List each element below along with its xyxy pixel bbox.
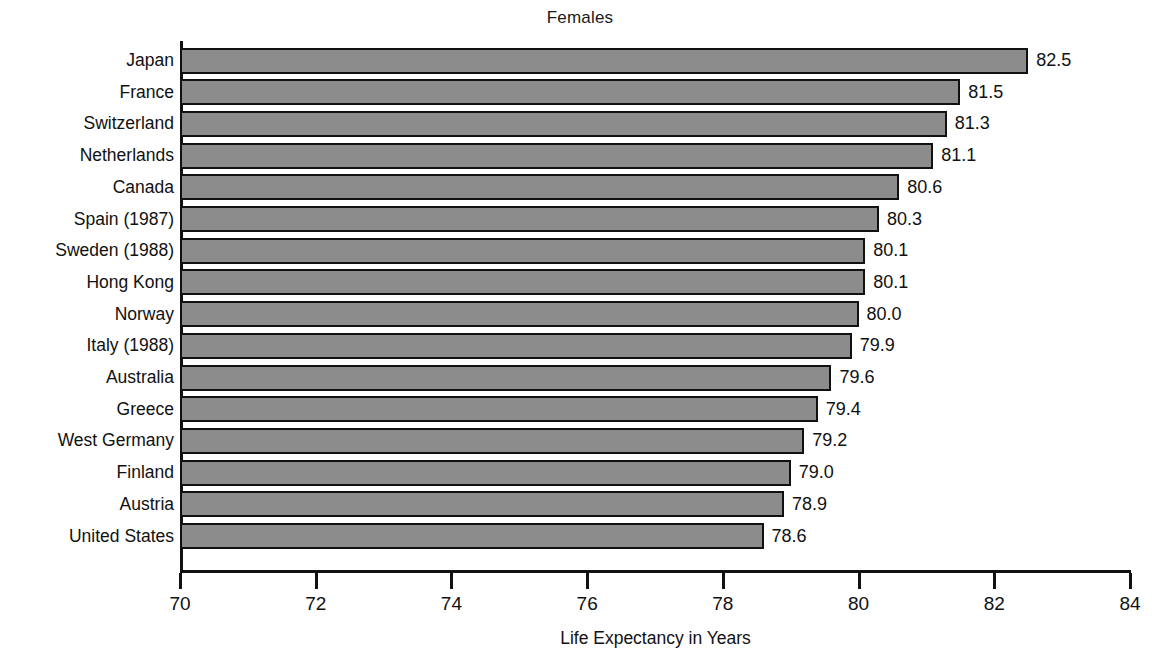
x-tick-label: 72 — [286, 592, 346, 616]
bar — [180, 460, 791, 486]
bar-row: 82.5 — [180, 45, 1130, 77]
category-label: Finland — [2, 461, 174, 483]
x-tick-mark — [179, 573, 182, 589]
bar-row: 79.2 — [180, 425, 1130, 457]
bar — [180, 491, 784, 517]
bar-value-label: 79.9 — [860, 331, 895, 359]
x-axis-title: Life Expectancy in Years — [180, 627, 1131, 649]
category-label: Switzerland — [2, 112, 174, 134]
bar-row: 81.1 — [180, 140, 1130, 172]
category-label: France — [2, 81, 174, 103]
bar-value-label: 80.1 — [873, 236, 908, 264]
plot-area: 82.581.581.381.180.680.380.180.180.079.9… — [180, 45, 1130, 572]
category-label: Austria — [2, 493, 174, 515]
x-tick-label: 78 — [693, 592, 753, 616]
bar-row: 79.0 — [180, 457, 1130, 489]
bar-value-label: 79.4 — [826, 395, 861, 423]
bar-value-label: 81.1 — [941, 141, 976, 169]
bar-value-label: 79.6 — [839, 363, 874, 391]
x-tick-label: 82 — [964, 592, 1024, 616]
bar-row: 80.1 — [180, 267, 1130, 299]
bar — [180, 365, 831, 391]
x-tick-label: 70 — [150, 592, 210, 616]
bar-row: 80.6 — [180, 172, 1130, 204]
x-tick-mark — [450, 573, 453, 589]
bar — [180, 269, 865, 295]
category-label: Japan — [2, 49, 174, 71]
category-label: Canada — [2, 176, 174, 198]
life-expectancy-bar-chart: Females JapanFranceSwitzerlandNetherland… — [0, 0, 1160, 660]
x-tick-mark — [586, 573, 589, 589]
bar — [180, 428, 804, 454]
category-label: Spain (1987) — [2, 208, 174, 230]
bar-row: 80.1 — [180, 235, 1130, 267]
category-label: Hong Kong — [2, 271, 174, 293]
x-tick-mark — [1129, 573, 1132, 589]
bar — [180, 396, 818, 422]
bar-row: 80.3 — [180, 204, 1130, 236]
x-tick-mark — [315, 573, 318, 589]
category-label: Sweden (1988) — [2, 239, 174, 261]
bar — [180, 523, 764, 549]
bar-value-label: 80.6 — [907, 173, 942, 201]
category-label: Netherlands — [2, 144, 174, 166]
category-label: Norway — [2, 303, 174, 325]
bar — [180, 143, 933, 169]
bar-value-label: 81.3 — [955, 109, 990, 137]
bar-row: 81.5 — [180, 77, 1130, 109]
bar-value-label: 78.9 — [792, 490, 827, 518]
bar-value-label: 81.5 — [968, 78, 1003, 106]
bar — [180, 238, 865, 264]
bar — [180, 206, 879, 232]
category-axis-labels: JapanFranceSwitzerlandNetherlandsCanadaS… — [0, 45, 174, 572]
bar-row: 79.9 — [180, 330, 1130, 362]
bar-value-label: 79.2 — [812, 426, 847, 454]
bar-row: 78.6 — [180, 521, 1130, 553]
bar-value-label: 80.1 — [873, 268, 908, 296]
category-label: Australia — [2, 366, 174, 388]
chart-title: Females — [0, 8, 1160, 28]
category-label: Greece — [2, 398, 174, 420]
bar — [180, 333, 852, 359]
bar-value-label: 80.0 — [867, 300, 902, 328]
bar-value-label: 79.0 — [799, 458, 834, 486]
bar-row: 79.4 — [180, 394, 1130, 426]
bar — [180, 111, 947, 137]
category-label: Italy (1988) — [2, 334, 174, 356]
bar — [180, 48, 1028, 74]
x-tick-mark — [858, 573, 861, 589]
bar-value-label: 80.3 — [887, 205, 922, 233]
x-tick-label: 74 — [421, 592, 481, 616]
x-tick-label: 84 — [1100, 592, 1160, 616]
x-tick-mark — [993, 573, 996, 589]
x-tick-label: 80 — [829, 592, 889, 616]
x-tick-mark — [722, 573, 725, 589]
x-tick-label: 76 — [557, 592, 617, 616]
bar-row: 80.0 — [180, 299, 1130, 331]
bar — [180, 79, 960, 105]
bar — [180, 301, 859, 327]
category-label: West Germany — [2, 429, 174, 451]
bar — [180, 174, 899, 200]
bar-value-label: 82.5 — [1036, 46, 1071, 74]
bar-row: 78.9 — [180, 489, 1130, 521]
category-label: United States — [2, 525, 174, 547]
bar-value-label: 78.6 — [772, 522, 807, 550]
x-axis-line — [180, 570, 1131, 573]
bar-row: 79.6 — [180, 362, 1130, 394]
bar-row: 81.3 — [180, 108, 1130, 140]
